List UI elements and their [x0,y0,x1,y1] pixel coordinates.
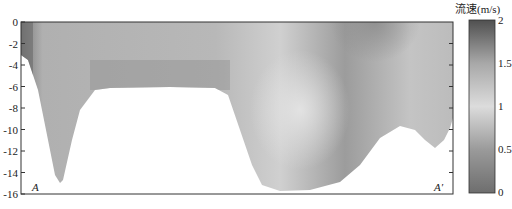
svg-text:-14: -14 [3,167,18,179]
svg-text:-6: -6 [9,81,19,93]
svg-text:1.5: 1.5 [498,57,512,69]
svg-text:-4: -4 [9,59,19,71]
velocity-field [21,22,453,194]
svg-text:-10: -10 [3,124,18,136]
svg-text:0: 0 [13,16,19,28]
svg-text:0: 0 [498,186,504,198]
svg-text:-12: -12 [3,145,18,157]
svg-text:0.5: 0.5 [498,143,512,155]
colorbar-label: 流速(m/s) [455,2,501,16]
velocity-section-chart: 0 -2 -4 -6 -8 -10 -12 -14 -16 A A′ 流速(m/… [0,0,512,209]
chart-container: 0 -2 -4 -6 -8 -10 -12 -14 -16 A A′ 流速(m/… [0,0,512,209]
svg-text:-16: -16 [3,188,18,200]
svg-text:2: 2 [498,14,504,26]
svg-text:-2: -2 [9,38,18,50]
section-label-end: A′ [433,181,444,193]
section-label-start: A [31,181,39,193]
colorbar: 流速(m/s) 0 0.5 1 1.5 2 [455,2,512,198]
svg-text:1: 1 [498,100,504,112]
svg-text:-8: -8 [9,102,19,114]
